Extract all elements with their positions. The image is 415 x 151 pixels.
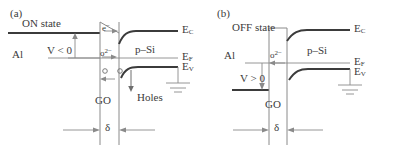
ev-sub-a: V bbox=[189, 65, 194, 73]
panel-a-ec-label: EC bbox=[182, 24, 193, 36]
panel-a-thickness-label: δ bbox=[105, 122, 110, 133]
panel-b-electrode-label: Al bbox=[224, 50, 235, 61]
valence-band-a bbox=[121, 67, 178, 78]
figure-canvas: (a) ON state Al V < 0 e− o2− p–Si Holes … bbox=[0, 0, 415, 151]
panel-b-semiconductor-label: p–Si bbox=[307, 45, 327, 56]
delta-left-head-b bbox=[262, 127, 269, 132]
oxygen-charge-a: 2− bbox=[105, 47, 112, 55]
panel-b-off-state: (b) OFF state Al V > 0 o2− p–Si GO δ EC … bbox=[207, 0, 415, 151]
panel-b-ev-label: EV bbox=[354, 66, 366, 78]
valence-band-b bbox=[289, 69, 350, 80]
panel-a-oxygen-ion-label: o2− bbox=[100, 48, 112, 58]
vacancy-circle-left-a bbox=[103, 69, 108, 74]
ev-sub-b: V bbox=[361, 70, 366, 78]
panel-a-bias-label: V < 0 bbox=[47, 45, 72, 56]
delta-left-head-a bbox=[93, 127, 100, 132]
panel-a-electrode-label: Al bbox=[12, 49, 23, 60]
electron-arrow-head-a bbox=[112, 28, 118, 33]
panel-b-barrier-label: GO bbox=[265, 99, 281, 110]
panel-a-electron-label: e− bbox=[102, 23, 110, 33]
ev-symbol-b: E bbox=[354, 65, 361, 77]
panel-a-barrier-label: GO bbox=[95, 95, 111, 106]
panel-a-on-state: (a) ON state Al V < 0 e− o2− p–Si Holes … bbox=[0, 0, 207, 151]
panel-b-bias-label: V > 0 bbox=[240, 73, 265, 84]
ec-symbol-b: E bbox=[354, 22, 361, 34]
vacancy-circle-right-a bbox=[118, 69, 123, 74]
panel-b-tag: (b) bbox=[217, 8, 230, 19]
ec-symbol-a: E bbox=[182, 23, 189, 35]
panel-a-tag: (a) bbox=[10, 8, 22, 19]
conduction-band-b bbox=[287, 30, 350, 41]
panel-b-state-label: OFF state bbox=[232, 22, 275, 33]
panel-b-thickness-label: δ bbox=[274, 122, 279, 133]
ec-sub-a: C bbox=[189, 28, 194, 36]
panel-a-semiconductor-label: p–Si bbox=[135, 44, 155, 55]
panel-b-oxygen-ion-label: o2− bbox=[270, 50, 282, 60]
panel-a-ev-label: EV bbox=[182, 61, 194, 73]
delta-right-head-b bbox=[287, 127, 294, 132]
holes-arrow-head-a bbox=[128, 86, 134, 92]
panel-a-holes-label: Holes bbox=[137, 92, 163, 103]
ev-symbol-a: E bbox=[182, 60, 189, 72]
electron-charge-a: − bbox=[106, 22, 110, 30]
delta-right-head-a bbox=[119, 127, 126, 132]
oxygen-charge-b: 2− bbox=[275, 49, 282, 57]
panel-b-ec-label: EC bbox=[354, 23, 365, 35]
panel-a-state-label: ON state bbox=[22, 18, 61, 29]
ec-sub-b: C bbox=[361, 27, 366, 35]
vacancy-arrow-head-a bbox=[100, 76, 106, 81]
